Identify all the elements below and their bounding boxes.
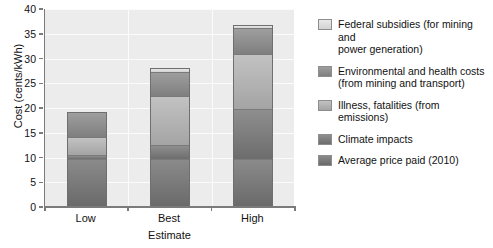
y-tick-label: 15 xyxy=(6,128,36,138)
y-tick-label: 35 xyxy=(6,29,36,39)
legend-item: Illness, fatalities (fromemissions) xyxy=(318,99,490,124)
x-tick-mark xyxy=(44,206,46,211)
bar-segment xyxy=(151,159,189,206)
bar-high xyxy=(233,25,273,207)
bar-low xyxy=(67,112,107,207)
bar-segment xyxy=(234,109,272,159)
y-tick-mark xyxy=(39,206,43,208)
plot-area xyxy=(44,9,294,207)
y-tick-mark xyxy=(39,83,43,85)
legend-label: Environmental and health costs(from mini… xyxy=(338,65,485,90)
bar-segment xyxy=(151,96,189,145)
x-tick-label-low: Low xyxy=(51,212,121,224)
x-tick-label-best: Best xyxy=(134,212,204,224)
legend-swatch xyxy=(318,66,332,77)
x-tick-mark xyxy=(127,206,129,211)
y-tick-label: 5 xyxy=(6,177,36,187)
y-tick-mark xyxy=(39,132,43,134)
x-tick-mark xyxy=(211,206,213,211)
bar-best xyxy=(150,68,190,207)
legend-swatch xyxy=(318,134,332,145)
bar-segment xyxy=(68,159,106,206)
bar-segment xyxy=(234,28,272,54)
bar-segment xyxy=(68,137,106,154)
bar-segment xyxy=(68,113,106,137)
y-tick-mark xyxy=(39,58,43,60)
vertical-gridline xyxy=(212,9,213,207)
y-tick-label: 40 xyxy=(6,4,36,14)
y-tick-label: 0 xyxy=(6,202,36,212)
y-tick-mark xyxy=(39,107,43,109)
legend-label: Average price paid (2010) xyxy=(338,154,459,167)
y-tick-mark xyxy=(39,8,43,10)
stacked-bar-chart-figure: Cost (cents/kWh) 0510152025303540 LowBes… xyxy=(0,0,493,248)
x-axis-title: Estimate xyxy=(44,229,295,241)
x-tick-mark xyxy=(294,206,296,211)
bar-segment xyxy=(234,54,272,109)
gridline xyxy=(45,9,294,10)
y-tick-mark xyxy=(39,33,43,35)
bar-segment xyxy=(151,72,189,96)
x-axis-line xyxy=(44,206,295,208)
y-tick-label: 30 xyxy=(6,54,36,64)
legend-swatch xyxy=(318,19,332,30)
legend-item: Federal subsidies (for mining andpower g… xyxy=(318,18,490,56)
legend: Federal subsidies (for mining andpower g… xyxy=(318,18,490,176)
y-tick-label: 10 xyxy=(6,153,36,163)
y-tick-mark xyxy=(39,182,43,184)
y-tick-label: 25 xyxy=(6,78,36,88)
y-tick-label: 20 xyxy=(6,103,36,113)
x-tick-label-high: High xyxy=(217,212,287,224)
legend-label: Federal subsidies (for mining andpower g… xyxy=(338,18,490,56)
legend-label: Climate impacts xyxy=(338,133,413,146)
legend-swatch xyxy=(318,100,332,111)
legend-item: Climate impacts xyxy=(318,133,490,146)
vertical-gridline xyxy=(128,9,129,207)
legend-label: Illness, fatalities (fromemissions) xyxy=(338,99,440,124)
legend-item: Average price paid (2010) xyxy=(318,154,490,167)
legend-swatch xyxy=(318,155,332,166)
bar-segment xyxy=(151,145,189,160)
legend-item: Environmental and health costs(from mini… xyxy=(318,65,490,90)
bar-segment xyxy=(234,159,272,206)
y-tick-mark xyxy=(39,157,43,159)
